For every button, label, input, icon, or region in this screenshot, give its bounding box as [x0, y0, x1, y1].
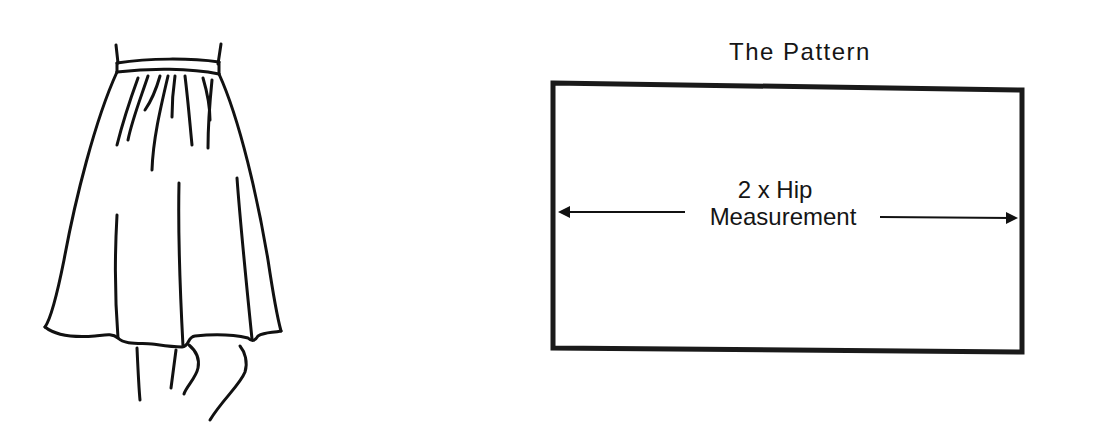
- left-arrow-icon: [558, 206, 685, 218]
- skirt-illustration: [0, 0, 320, 437]
- pattern-title: The Pattern: [700, 38, 900, 66]
- dimension-label-line2: Measurement: [688, 203, 878, 231]
- dimension-label-line1: 2 x Hip: [715, 176, 835, 204]
- right-arrow-icon: [880, 212, 1018, 224]
